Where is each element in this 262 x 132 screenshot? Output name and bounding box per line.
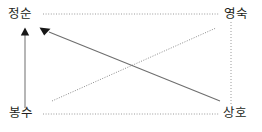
arrowhead-icon-diagonal: [40, 28, 51, 36]
node-label-bottom-right: 상호: [223, 107, 247, 120]
edge-diagonal-solid: [49, 32, 220, 101]
arrowhead-icon-vertical: [21, 28, 29, 36]
node-label-bottom-left: 봉수: [9, 107, 33, 120]
node-label-top-left: 정순: [8, 8, 32, 21]
node-label-top-right: 영숙: [224, 8, 248, 21]
diagram-canvas: 정순 영숙 봉수 상호: [0, 0, 262, 132]
